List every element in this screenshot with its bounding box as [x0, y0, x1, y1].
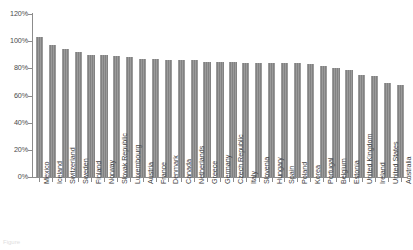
x-axis-category-label: Poland: [300, 162, 309, 184]
x-axis-category-label: Korea: [313, 165, 322, 184]
x-axis-category-label: Switzerland: [68, 147, 77, 184]
x-axis-category-label: Germany: [223, 155, 232, 184]
x-axis-category-label: Hungary: [275, 157, 284, 184]
x-axis-category-label: Italy: [249, 171, 258, 184]
x-axis-category-label: Australia: [404, 156, 413, 184]
x-axis-category-label: Luxembourg: [133, 145, 142, 184]
x-axis-category-label: Czech Republic: [236, 134, 245, 184]
x-axis-category-label: Finland: [94, 161, 103, 184]
x-axis-category-label: Slovak Republic: [120, 133, 129, 184]
x-axis-category-label: Netherlands: [197, 146, 206, 184]
x-axis-category-label: Mexico: [42, 162, 51, 184]
x-axis-category-label: Norway: [107, 160, 116, 184]
x-axis-category-label: Belgium: [339, 158, 348, 184]
x-axis-category-label: Canada: [184, 159, 193, 184]
x-axis-category-label: Iceland: [55, 161, 64, 184]
x-axis-category-label: Austria: [146, 162, 155, 184]
figure-caption: Figure: [3, 239, 20, 245]
x-axis-category-label: Ireland: [378, 162, 387, 184]
x-axis-category-label: Sweden: [81, 158, 90, 184]
x-axis-category-label: Greece: [210, 161, 219, 184]
x-axis-category-label: Portugal: [326, 158, 335, 184]
x-axis-category-label: Spain: [287, 166, 296, 184]
x-axis-category-label: United Kingdom: [365, 134, 374, 184]
x-axis-category-label: Slovenia: [262, 157, 271, 184]
x-axis-category-label: France: [159, 162, 168, 184]
x-axis-category-label: Denmark: [171, 155, 180, 184]
x-axis-category-label: United States: [391, 142, 400, 185]
x-axis-category-label: Estonia: [352, 160, 361, 184]
